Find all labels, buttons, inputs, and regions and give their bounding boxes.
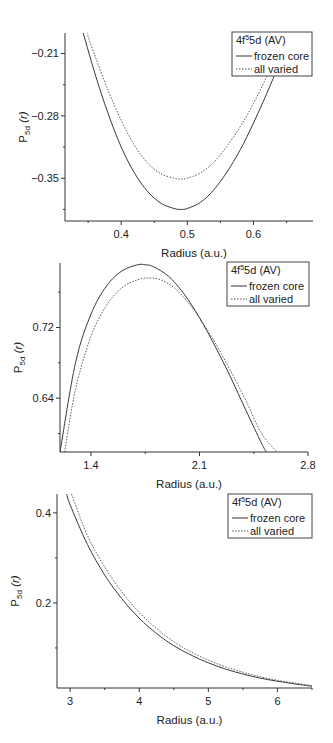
y-axis-title: P5d (r) — [17, 111, 32, 142]
legend-entry-all-varied: all varied — [250, 525, 294, 537]
x-tick-label: 0.6 — [246, 228, 261, 240]
x-tick-label: 1.4 — [83, 459, 98, 471]
y-axis-title: P5d (r) — [9, 575, 24, 606]
x-tick-label: 4 — [136, 695, 142, 707]
x-tick-label: 6 — [274, 695, 280, 707]
chart-panel-bottom: 0.40.23456Radius (a.u.)P5d (r)4f55d (AV)… — [9, 494, 312, 726]
chart-panel-top: −0.21−0.28−0.350.40.50.6Radius (a.u.)P5d… — [17, 20, 313, 259]
figure: −0.21−0.28−0.350.40.50.6Radius (a.u.)P5d… — [0, 0, 333, 743]
legend-entry-all-varied: all varied — [249, 293, 293, 305]
y-tick-label: 0.2 — [36, 597, 51, 609]
x-tick-label: 3 — [67, 695, 73, 707]
x-tick-label: 2.1 — [192, 459, 207, 471]
x-axis-title: Radius (a.u.) — [156, 478, 222, 490]
x-tick-label: 2.8 — [300, 459, 315, 471]
legend: 4f55d (AV)frozen coreall varied — [227, 262, 309, 306]
y-tick-label: −0.35 — [31, 172, 59, 184]
legend-title: 4f55d (AV) — [232, 496, 282, 508]
legend: 4f55d (AV)frozen coreall varied — [228, 494, 312, 538]
y-tick-label: 0.4 — [36, 507, 51, 519]
y-axis-title: P5d (r) — [12, 342, 27, 373]
y-tick-label: −0.28 — [31, 110, 59, 122]
y-tick-label: −0.21 — [31, 47, 59, 59]
legend-title: 4f55d (AV) — [236, 34, 286, 46]
legend-entry-frozen-core: frozen core — [254, 50, 309, 62]
legend-title: 4f55d (AV) — [231, 264, 281, 276]
legend-entry-all-varied: all varied — [254, 63, 298, 75]
y-tick-label: 0.72 — [33, 321, 54, 333]
legend-entry-frozen-core: frozen core — [250, 512, 305, 524]
x-axis-title: Radius (a.u.) — [161, 247, 227, 259]
x-axis-title: Radius (a.u.) — [157, 714, 223, 726]
x-tick-label: 5 — [205, 695, 211, 707]
legend-entry-frozen-core: frozen core — [249, 280, 304, 292]
chart-panel-middle: 0.720.641.42.12.8Radius (a.u.)P5d (r)4f5… — [12, 262, 316, 490]
y-tick-label: 0.64 — [33, 392, 54, 404]
legend: 4f55d (AV)frozen coreall varied — [232, 32, 312, 76]
x-tick-label: 0.4 — [114, 228, 129, 240]
x-tick-label: 0.5 — [180, 228, 195, 240]
